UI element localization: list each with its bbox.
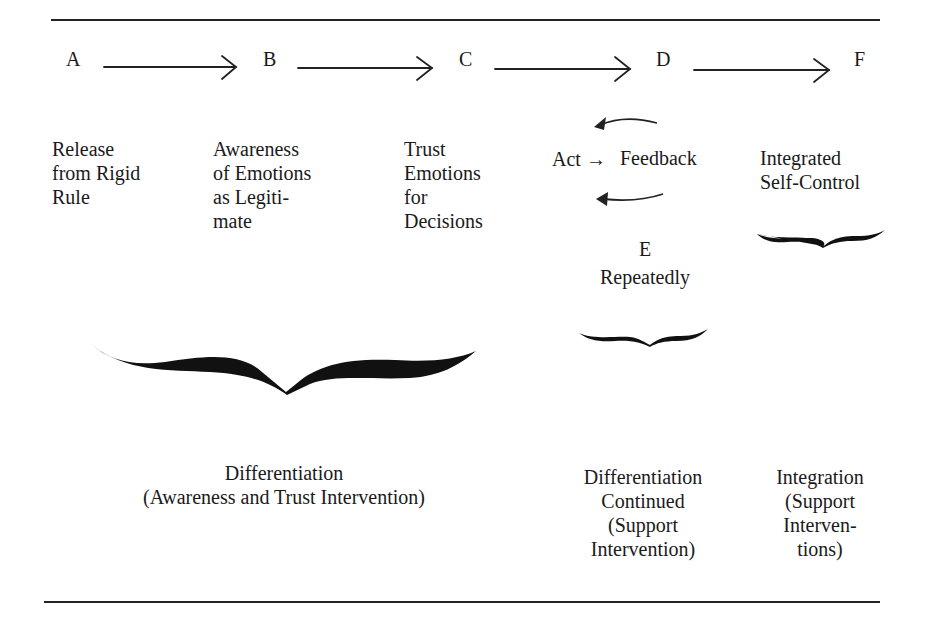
curved-left-arrow-icon <box>596 192 663 206</box>
phase-differentiation-continued: Differentiation Continued (Support Inter… <box>543 465 743 561</box>
stage-label-b: Awareness of Emotions as Legiti- mate <box>213 137 311 233</box>
curved-left-arrow-icon <box>594 117 657 130</box>
stage-label-a: Release from Rigid Rule <box>52 137 140 209</box>
loop-letter-e: E <box>600 237 690 261</box>
right-arrow-icon: → <box>586 147 606 171</box>
phase-integration: Integration (Support Interven- tions) <box>750 465 890 561</box>
right-arrow-icon <box>298 57 432 80</box>
horizontal-brace-icon <box>757 230 885 248</box>
horizontal-brace-icon <box>579 329 708 347</box>
loop-repeatedly: Repeatedly <box>560 265 730 289</box>
loop-feedback: Feedback <box>620 146 697 170</box>
stage-label-c: Trust Emotions for Decisions <box>404 137 483 233</box>
right-arrow-icon <box>104 56 236 79</box>
right-arrow-icon <box>495 57 630 81</box>
stage-label-f: Integrated Self-Control <box>760 146 860 194</box>
phase-differentiation: Differentiation (Awareness and Trust Int… <box>44 461 524 509</box>
horizontal-brace-icon <box>92 345 476 395</box>
right-arrow-icon <box>694 59 829 82</box>
loop-act: Act <box>552 147 581 171</box>
